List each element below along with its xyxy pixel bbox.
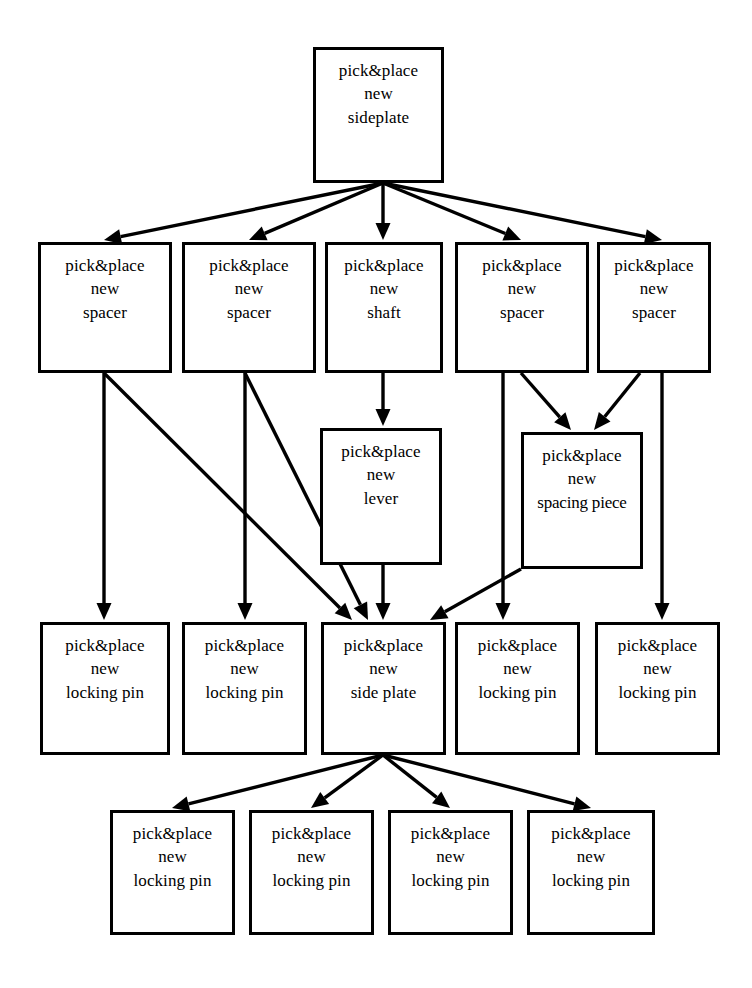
node-shaft[interactable]: pick&placenewshaft [325, 242, 443, 373]
node-label-line-1: pick&place [411, 822, 490, 845]
node-label-line-2: new [369, 657, 398, 680]
node-label-line-2: new [568, 467, 597, 490]
edge-n10-to-n16 [383, 755, 591, 811]
node-label-line-3: spacer [83, 301, 127, 324]
node-spacer[interactable]: pick&placenewspacer [38, 242, 172, 373]
node-label-line-1: pick&place [133, 822, 212, 845]
node-label-line-3: locking pin [133, 869, 211, 892]
node-label-line-3: locking pin [478, 681, 556, 704]
node-label-line-1: pick&place [542, 444, 621, 467]
node-locking-pin[interactable]: pick&placenewlocking pin [110, 810, 235, 935]
node-label-line-3: spacer [500, 301, 544, 324]
assembly-plan-diagram: pick&placenewsideplatepick&placenewspace… [0, 0, 752, 988]
node-label-line-1: pick&place [344, 254, 423, 277]
node-label-line-2: new [235, 277, 264, 300]
node-label-line-2: new [370, 277, 399, 300]
edge-n0-to-n4 [383, 183, 521, 240]
edge-n0-to-n2 [249, 183, 383, 240]
node-label-line-2: new [503, 657, 532, 680]
node-label-line-3: sideplate [348, 106, 409, 129]
node-sideplate[interactable]: pick&placenewsideplate [313, 47, 444, 183]
node-locking-pin[interactable]: pick&placenewlocking pin [182, 622, 307, 755]
node-label-line-1: pick&place [551, 822, 630, 845]
node-label-line-3: spacing piece [537, 491, 626, 514]
node-label-line-3: locking pin [552, 869, 630, 892]
edge-n5-to-n7 [594, 373, 640, 430]
node-label-line-3: locking pin [272, 869, 350, 892]
node-label-line-3: locking pin [205, 681, 283, 704]
edge-n10-to-n14 [311, 755, 383, 808]
edge-n10-to-n13 [172, 755, 383, 811]
node-label-line-2: new [643, 657, 672, 680]
node-spacer[interactable]: pick&placenewspacer [597, 242, 711, 373]
node-label-line-2: new [367, 463, 396, 486]
edge-n0-to-n3 [376, 183, 391, 240]
node-label-line-3: lever [364, 487, 398, 510]
node-label-line-2: new [364, 82, 393, 105]
edge-n4-to-n7 [521, 373, 571, 430]
node-spacer[interactable]: pick&placenewspacer [182, 242, 316, 373]
node-label-line-3: locking pin [411, 869, 489, 892]
node-locking-pin[interactable]: pick&placenewlocking pin [595, 622, 720, 755]
node-label-line-2: new [436, 845, 465, 868]
node-label-line-2: new [91, 277, 120, 300]
node-lever[interactable]: pick&placenewlever [320, 428, 442, 565]
node-locking-pin[interactable]: pick&placenewlocking pin [455, 622, 580, 755]
node-label-line-2: new [508, 277, 537, 300]
node-locking-pin[interactable]: pick&placenewlocking pin [527, 810, 655, 935]
node-label-line-3: side plate [351, 681, 417, 704]
edge-n0-to-n5 [383, 183, 662, 244]
node-label-line-1: pick&place [482, 254, 561, 277]
node-label-line-3: locking pin [618, 681, 696, 704]
edge-n0-to-n1 [104, 183, 383, 244]
node-label-line-1: pick&place [65, 254, 144, 277]
node-label-line-1: pick&place [614, 254, 693, 277]
node-label-line-2: new [158, 845, 187, 868]
edge-n5-to-n12 [655, 373, 670, 620]
edge-n4-to-n11 [496, 373, 511, 620]
edge-n6-to-n10 [376, 565, 391, 620]
node-label-line-3: shaft [367, 301, 401, 324]
node-label-line-2: new [640, 277, 669, 300]
edge-n10-to-n15 [383, 755, 450, 808]
node-spacer[interactable]: pick&placenewspacer [455, 242, 589, 373]
node-label-line-1: pick&place [344, 634, 423, 657]
edge-n3-to-n6 [376, 373, 391, 426]
edge-n7-to-n10 [430, 569, 521, 620]
node-side-plate[interactable]: pick&placenewside plate [321, 622, 446, 755]
node-label-line-2: new [577, 845, 606, 868]
node-label-line-1: pick&place [341, 440, 420, 463]
node-label-line-3: locking pin [66, 681, 144, 704]
node-label-line-2: new [230, 657, 259, 680]
node-label-line-1: pick&place [478, 634, 557, 657]
node-spacing-piece[interactable]: pick&placenewspacing piece [521, 432, 643, 569]
node-label-line-1: pick&place [339, 59, 418, 82]
node-label-line-1: pick&place [209, 254, 288, 277]
edge-n1-to-n8 [97, 373, 112, 620]
node-label-line-3: spacer [227, 301, 271, 324]
node-locking-pin[interactable]: pick&placenewlocking pin [249, 810, 374, 935]
node-label-line-2: new [91, 657, 120, 680]
node-label-line-1: pick&place [618, 634, 697, 657]
edge-n2-to-n9 [238, 373, 253, 620]
node-label-line-1: pick&place [205, 634, 284, 657]
edge-n1-to-n10 [104, 373, 352, 620]
node-label-line-2: new [297, 845, 326, 868]
node-locking-pin[interactable]: pick&placenewlocking pin [388, 810, 513, 935]
node-label-line-1: pick&place [272, 822, 351, 845]
node-label-line-3: spacer [632, 301, 676, 324]
node-label-line-1: pick&place [65, 634, 144, 657]
node-locking-pin[interactable]: pick&placenewlocking pin [40, 622, 170, 755]
